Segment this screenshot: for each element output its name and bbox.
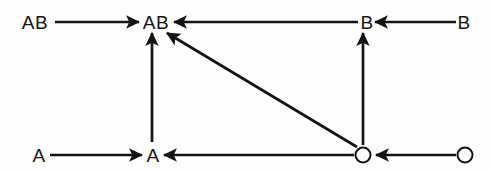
diagram-canvas: AB AB B B A A [0,0,490,172]
node-a-bottom-left[interactable]: A [32,146,45,165]
node-b-top-center[interactable]: B [360,13,373,32]
edge-layer [0,0,490,172]
edge-o-center-to-ab-center [167,33,357,147]
node-a-bottom-center[interactable]: A [146,146,159,165]
node-o-bottom-center[interactable] [355,147,372,164]
node-o-bottom-right[interactable] [457,147,474,164]
node-b-top-right[interactable]: B [457,13,470,32]
node-ab-top-center[interactable]: AB [143,13,169,32]
node-ab-top-left[interactable]: AB [22,13,48,32]
